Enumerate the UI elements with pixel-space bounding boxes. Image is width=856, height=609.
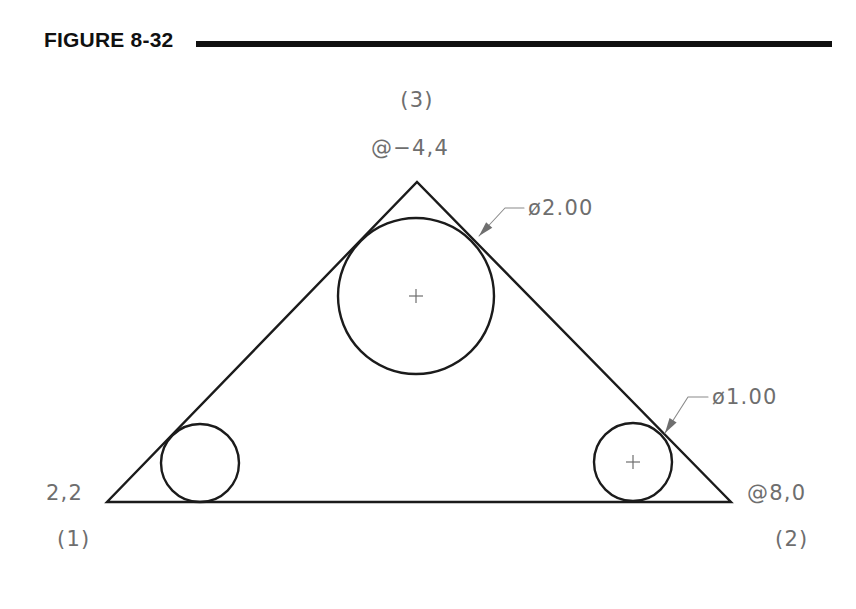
large-circle-diameter-label: ø2.00	[528, 196, 594, 220]
vertex-3-number-label: (3)	[400, 88, 433, 112]
technical-drawing-canvas: (3) @−4,4 2,2 (1) @8,0 (2) ø2.00 ø1.00	[0, 0, 856, 609]
dimension-leaders	[479, 208, 708, 433]
vertex-2-coordinate-label: @8,0	[747, 481, 806, 505]
vertex-2-number-label: (2)	[775, 527, 808, 551]
right-circle-diameter-label: ø1.00	[712, 385, 778, 409]
circle-center-marks	[409, 289, 640, 469]
figure-container: FIGURE 8-32 (3) @−4,4 2,2 (1) @8,0 (2) ø…	[0, 0, 856, 609]
vertex-1-number-label: (1)	[57, 527, 90, 551]
vertex-1-coordinate-label: 2,2	[46, 481, 83, 505]
left-small-circle	[161, 424, 239, 502]
vertex-3-coordinate-label: @−4,4	[371, 136, 449, 160]
triangle-outline	[107, 182, 731, 502]
right-circle-leader-arrowhead	[665, 418, 677, 433]
right-circle-leader-line	[665, 397, 708, 433]
